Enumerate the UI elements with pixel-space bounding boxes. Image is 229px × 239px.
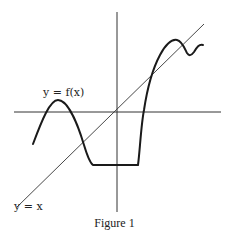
line-label: y = x xyxy=(14,200,43,213)
figure-caption: Figure 1 xyxy=(0,216,229,231)
function-curve xyxy=(33,40,203,165)
figure-1: y = f(x) y = x Figure 1 xyxy=(0,0,229,239)
curve-label: y = f(x) xyxy=(43,86,84,99)
